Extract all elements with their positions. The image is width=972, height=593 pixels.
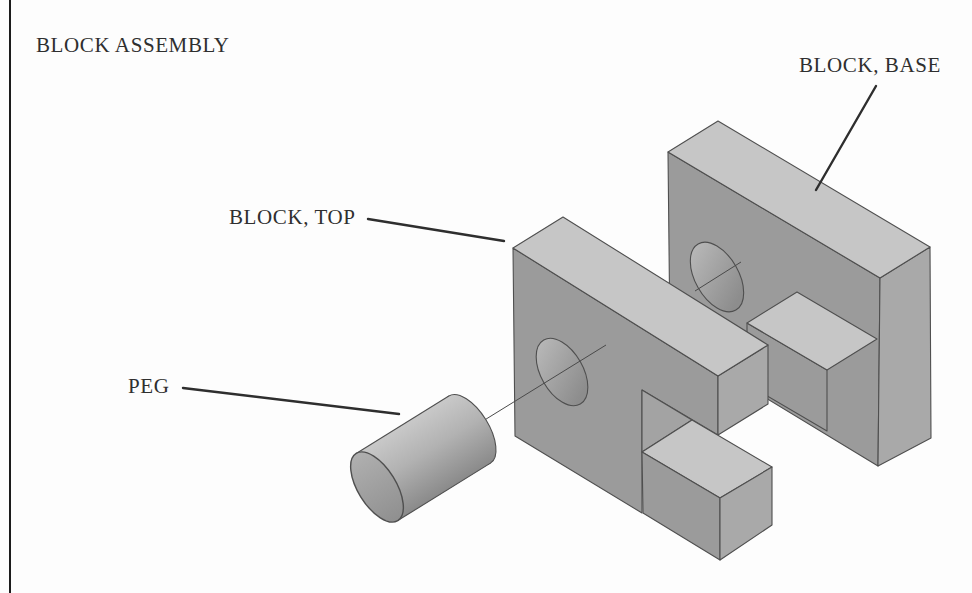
peg-part <box>340 386 507 531</box>
drawing-title: BLOCK ASSEMBLY <box>36 33 230 58</box>
leader-line-peg <box>183 388 399 414</box>
label-block-top: BLOCK, TOP <box>229 205 356 230</box>
label-peg: PEG <box>128 374 169 399</box>
base-right-face <box>878 247 931 466</box>
leader-line-block-base <box>816 86 876 190</box>
leader-line-block-top <box>368 219 504 241</box>
label-block-base: BLOCK, BASE <box>799 53 941 78</box>
assembly-diagram <box>0 0 972 593</box>
page-border-line <box>9 0 11 593</box>
drawing-page: BLOCK ASSEMBLY BLOCK, BASE BLOCK, TOP PE… <box>0 0 972 593</box>
